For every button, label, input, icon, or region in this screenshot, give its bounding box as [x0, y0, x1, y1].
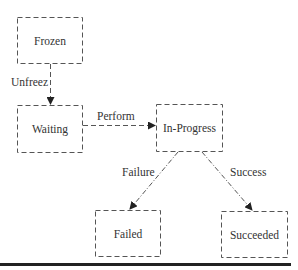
state-frozen: Frozen [17, 17, 83, 64]
state-failed: Failed [95, 210, 161, 257]
state-succeeded: Succeeded [221, 211, 288, 258]
state-label-in-progress: In-Progress [163, 122, 216, 134]
state-diagram: Frozen Waiting In-Progress Failed Succee… [0, 0, 298, 270]
state-label-waiting: Waiting [32, 123, 68, 135]
state-in-progress: In-Progress [156, 104, 223, 152]
edge-success [202, 152, 252, 210]
bottom-rule [0, 263, 291, 266]
state-label-frozen: Frozen [34, 35, 66, 47]
edge-failure [130, 152, 178, 209]
state-label-failed: Failed [114, 228, 143, 240]
edge-label-unfreez: Unfreez [11, 76, 48, 88]
edge-label-failure: Failure [122, 166, 155, 178]
state-waiting: Waiting [17, 105, 83, 153]
state-label-succeeded: Succeeded [230, 229, 279, 241]
edge-label-perform: Perform [97, 110, 135, 122]
edge-label-success: Success [230, 166, 266, 178]
